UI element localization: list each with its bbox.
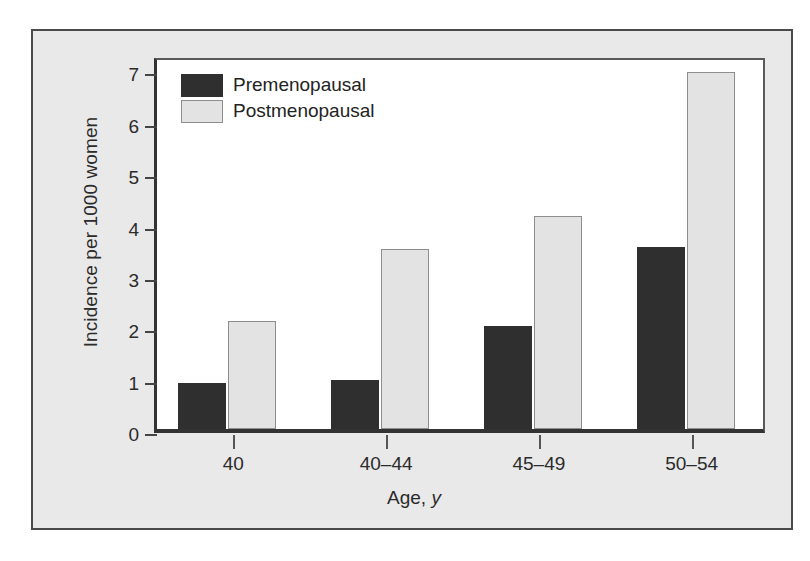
- y-axis-tick: [145, 229, 157, 231]
- y-axis-tick: [145, 434, 157, 436]
- y-axis-label: 3: [105, 270, 139, 292]
- x-axis-tick: [233, 435, 235, 449]
- x-axis-label: 50–54: [632, 453, 752, 475]
- figure-frame: Incidence per 1000 women Age, y 01234567…: [31, 29, 793, 530]
- x-axis-title-unit: y: [431, 487, 441, 508]
- y-axis-title: Incidence per 1000 women: [80, 82, 102, 382]
- bar-postmenopausal: [381, 249, 429, 429]
- x-axis-title-text: Age, y: [387, 487, 441, 508]
- figure-root: Incidence per 1000 women Age, y 01234567…: [0, 0, 810, 561]
- y-axis-label: 6: [105, 116, 139, 138]
- bar-premenopausal: [637, 247, 685, 429]
- y-axis-label: 1: [105, 373, 139, 395]
- y-axis-label: 0: [105, 424, 139, 446]
- x-axis-tick: [692, 435, 694, 449]
- x-axis-tick: [386, 435, 388, 449]
- legend-swatch-premenopausal: [181, 74, 223, 97]
- bar-premenopausal: [331, 380, 379, 429]
- y-axis-tick: [145, 331, 157, 333]
- x-axis-label: 40–44: [326, 453, 446, 475]
- legend-item-premenopausal: Premenopausal: [181, 72, 375, 98]
- x-axis-title: Age, y: [33, 487, 795, 509]
- bar-postmenopausal: [228, 321, 276, 429]
- y-axis-tick: [145, 126, 157, 128]
- y-axis-tick: [145, 74, 157, 76]
- y-axis-tick: [145, 383, 157, 385]
- x-axis-label: 40: [173, 453, 293, 475]
- bar-postmenopausal: [687, 72, 735, 429]
- legend-item-postmenopausal: Postmenopausal: [181, 98, 375, 124]
- legend-swatch-postmenopausal: [181, 100, 223, 123]
- plot-area: 01234567 4040–4445–4950–54 Premenopausal…: [154, 58, 765, 433]
- y-axis-tick: [145, 177, 157, 179]
- bar-premenopausal: [178, 383, 226, 429]
- y-axis-label: 7: [105, 64, 139, 86]
- y-axis-label: 4: [105, 219, 139, 241]
- legend-label-premenopausal: Premenopausal: [233, 74, 366, 96]
- legend-label-postmenopausal: Postmenopausal: [233, 100, 375, 122]
- x-axis-tick: [539, 435, 541, 449]
- y-axis-label: 5: [105, 167, 139, 189]
- chart-legend: Premenopausal Postmenopausal: [181, 72, 375, 124]
- y-axis-tick: [145, 280, 157, 282]
- bar-premenopausal: [484, 326, 532, 429]
- y-axis-label: 2: [105, 321, 139, 343]
- x-axis-label: 45–49: [479, 453, 599, 475]
- bar-postmenopausal: [534, 216, 582, 429]
